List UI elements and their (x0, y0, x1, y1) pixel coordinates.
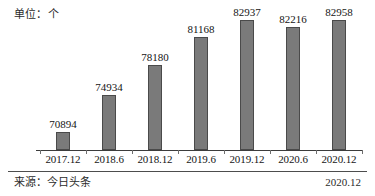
x-axis-tick (40, 150, 41, 154)
x-axis-label: 2019.12 (224, 152, 270, 167)
bar-value-label: 70894 (49, 118, 77, 130)
bar-value-label: 82937 (233, 6, 261, 18)
bar-slot: 82958 (316, 14, 362, 150)
x-axis-label: 2018.12 (132, 152, 178, 167)
bar-slot: 74934 (86, 14, 132, 150)
bar-2018-12[interactable] (148, 65, 162, 151)
bar-2019-6[interactable] (194, 37, 208, 150)
x-axis-line (36, 150, 362, 151)
footer-divider (8, 171, 367, 172)
bar-2018-6[interactable] (102, 95, 116, 150)
bar-slot: 78180 (132, 14, 178, 150)
plot-area: 70894 74934 78180 81168 82937 82216 8295… (40, 14, 362, 150)
x-axis-label: 2020.6 (270, 152, 316, 167)
bar-chart-figure: 单位：个 70894 74934 78180 81168 82937 82216… (0, 0, 375, 196)
bar-value-label: 82216 (279, 13, 307, 25)
x-axis-tick (178, 150, 179, 154)
source-text: 来源：今日头条 (14, 174, 91, 190)
x-axis-tick (132, 150, 133, 154)
x-axis-tick (224, 150, 225, 154)
x-axis-tick (270, 150, 271, 154)
bar-slot: 81168 (178, 14, 224, 150)
bar-value-label: 81168 (187, 23, 214, 35)
x-axis-tick (86, 150, 87, 154)
bar-2020-12[interactable] (332, 20, 346, 150)
footer-bar: 来源：今日头条 2020.12 (8, 174, 367, 194)
x-axis-label: 2019.6 (178, 152, 224, 167)
bar-2020-6[interactable] (286, 27, 300, 150)
bar-2019-12[interactable] (240, 20, 254, 150)
footer-date: 2020.12 (325, 174, 361, 190)
x-axis-labels: 2017.12 2018.6 2018.12 2019.6 2019.12 20… (40, 152, 362, 168)
bar-slot: 70894 (40, 14, 86, 150)
bar-slot: 82216 (270, 14, 316, 150)
bar-2017-12[interactable] (56, 132, 70, 150)
x-axis-label: 2020.12 (316, 152, 362, 167)
bar-value-label: 78180 (141, 51, 169, 63)
x-axis-tick (362, 150, 363, 154)
x-axis-label: 2018.6 (86, 152, 132, 167)
x-axis-label: 2017.12 (40, 152, 86, 167)
bar-slot: 82937 (224, 14, 270, 150)
bar-value-label: 74934 (95, 81, 123, 93)
bar-value-label: 82958 (325, 6, 353, 18)
x-axis-tick (316, 150, 317, 154)
